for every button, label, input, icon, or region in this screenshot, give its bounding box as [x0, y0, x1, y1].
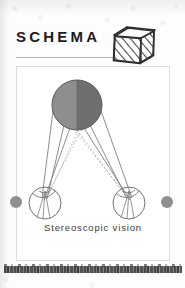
card-header: SCHEMA [0, 0, 185, 62]
bottom-grunge-band [4, 266, 182, 273]
diagram-panel: Stereoscopic vision [16, 66, 170, 261]
dotted-rays [45, 123, 129, 199]
page-title: SCHEMA [16, 29, 100, 44]
title-divider [16, 57, 113, 58]
right-marker-dot [161, 196, 173, 208]
wireframe-cube-icon [108, 22, 160, 66]
diagram-caption: Stereoscopic vision [17, 222, 169, 233]
left-eye [29, 187, 61, 219]
viewed-object-sphere [52, 80, 102, 130]
right-eye [113, 187, 145, 219]
schema-card: SCHEMA [0, 0, 185, 288]
left-marker-dot [10, 196, 22, 208]
